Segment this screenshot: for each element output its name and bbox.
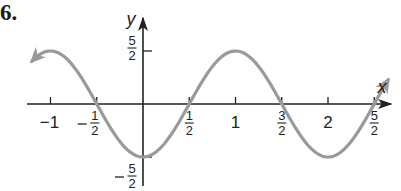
- tick-label: 2: [323, 113, 332, 132]
- denominator: 2: [128, 48, 135, 63]
- tick-labels: −112121322525252: [40, 33, 379, 191]
- cosine-graph: −112121322525252 xy: [0, 0, 401, 191]
- tick-label: 52: [115, 161, 137, 191]
- tick-value: 1: [231, 113, 240, 132]
- denominator: 2: [186, 123, 193, 138]
- axis-labels: xy: [125, 9, 388, 97]
- denominator: 2: [91, 123, 98, 138]
- tick-label: 12: [78, 108, 100, 138]
- denominator: 2: [278, 123, 285, 138]
- tick-label: 1: [231, 113, 240, 132]
- denominator: 2: [371, 123, 378, 138]
- numerator: 1: [91, 108, 98, 123]
- tick-label: −1: [40, 113, 59, 132]
- numerator: 5: [128, 33, 135, 48]
- x-axis-label: x: [377, 77, 388, 97]
- tick-value: 2: [323, 113, 332, 132]
- numerator: 5: [128, 161, 135, 176]
- tick-label: 52: [128, 33, 137, 63]
- denominator: 2: [128, 176, 135, 191]
- axes: [27, 18, 391, 186]
- y-axis-label: y: [125, 9, 137, 29]
- tick-value: −1: [40, 113, 59, 132]
